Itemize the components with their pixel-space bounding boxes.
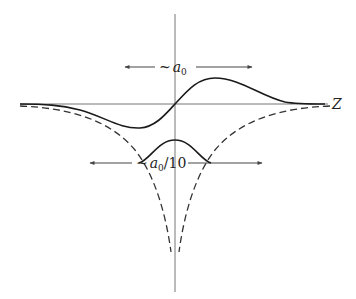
solid-curve-large xyxy=(20,78,325,128)
dashed-curve-left xyxy=(20,106,171,252)
z-axis-label: Z xyxy=(331,96,342,112)
dashed-curve-right xyxy=(179,106,330,252)
top-scale-label: ~a0 xyxy=(159,59,187,77)
diagram-canvas: ~a0 ~a0/10 Z xyxy=(0,0,356,299)
bottom-scale-label: ~a0/10 xyxy=(136,155,186,173)
